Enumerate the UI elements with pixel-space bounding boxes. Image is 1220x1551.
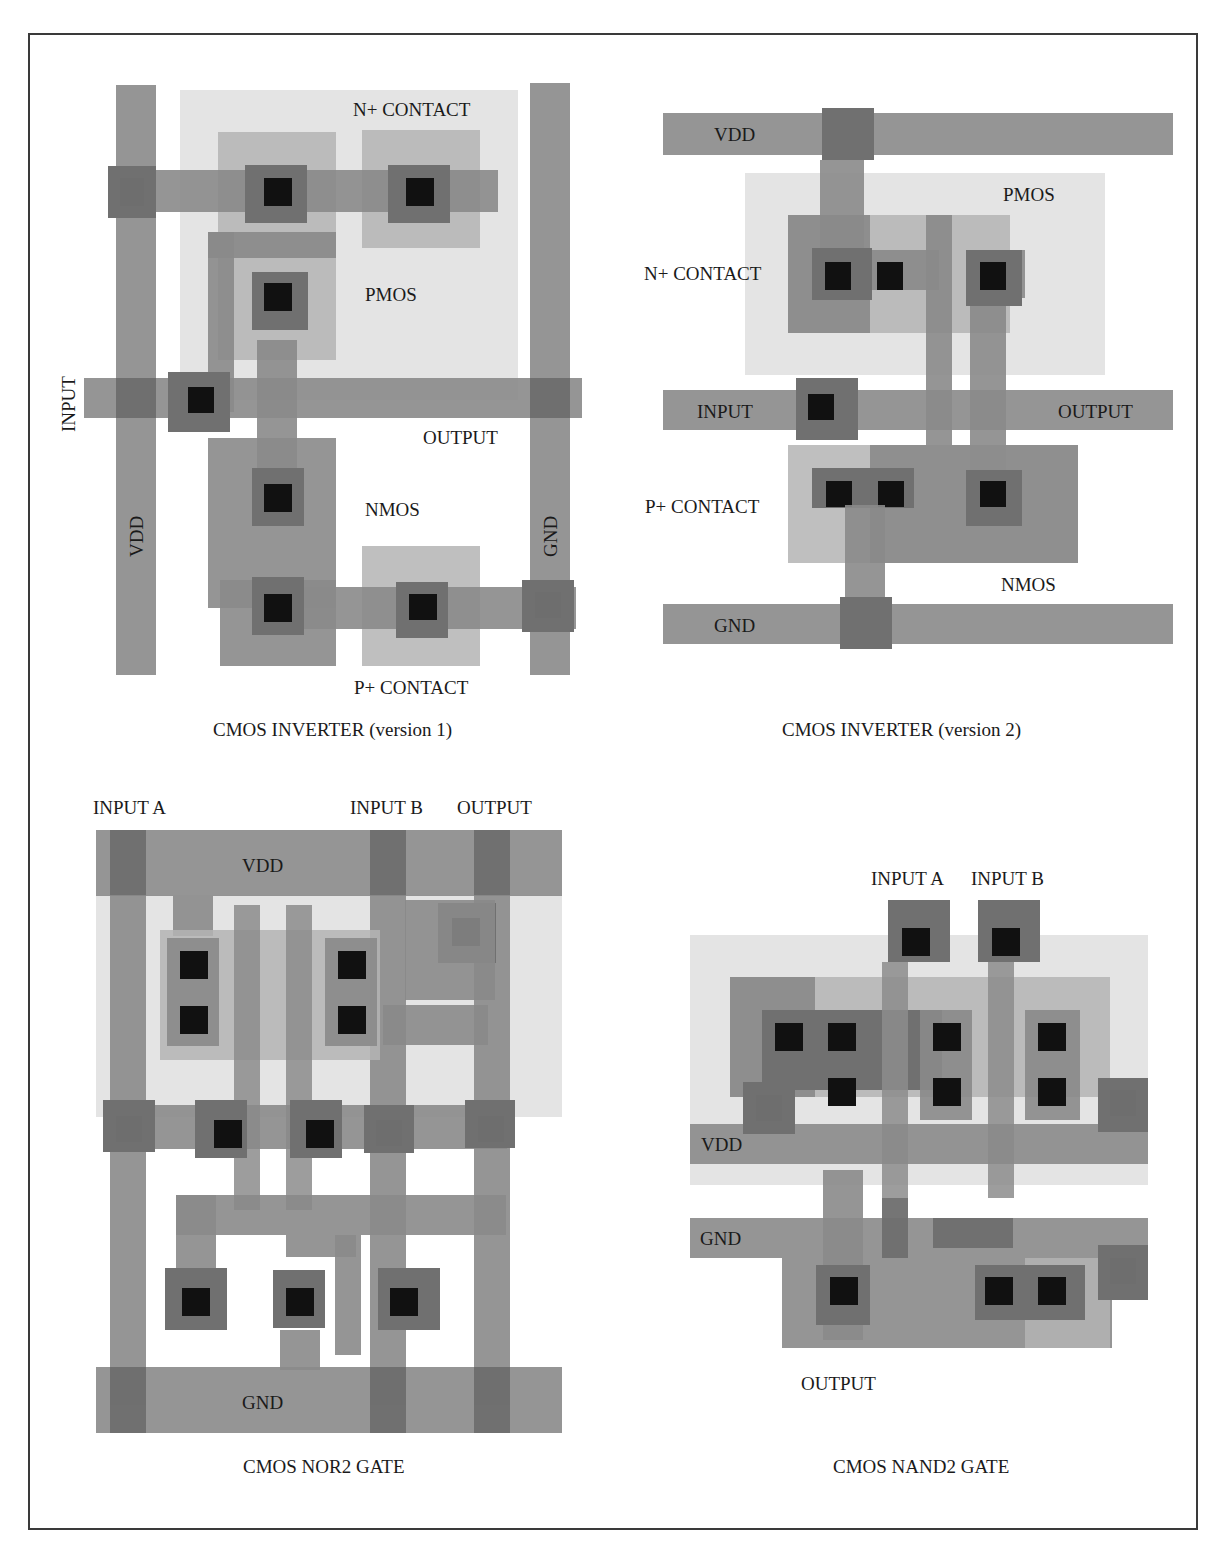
contact-cut (1038, 1023, 1066, 1051)
metal-line (845, 505, 885, 605)
contact-cut (180, 1006, 208, 1034)
contact-cut (808, 394, 834, 420)
label-output: OUTPUT (801, 1373, 876, 1394)
label-vdd: VDD (714, 124, 755, 145)
contact-cut (980, 481, 1006, 507)
contact-cut (264, 178, 292, 206)
label-input-a: INPUT A (93, 797, 166, 818)
metal-line (176, 1195, 216, 1275)
metal-line (176, 1195, 506, 1235)
contact-cut (828, 1023, 856, 1051)
metal-via (370, 830, 406, 896)
metal-line (280, 1330, 320, 1370)
contact-cut (826, 481, 852, 507)
contact-cut (338, 1006, 366, 1034)
label-p-contact: P+ CONTACT (354, 677, 469, 698)
metal-via (116, 1116, 142, 1142)
label-pmos: PMOS (365, 284, 417, 305)
cmos-layouts-figure: N+ CONTACT PMOS INPUT OUTPUT NMOS VDD GN… (0, 0, 1220, 1551)
contact-pad (840, 597, 892, 649)
caption-inverter-v1: CMOS INVERTER (version 1) (213, 719, 452, 741)
metal-line (335, 1235, 361, 1355)
contact-cut (188, 387, 214, 413)
label-output: OUTPUT (1058, 401, 1133, 422)
label-pmos: PMOS (1003, 184, 1055, 205)
metal-via (933, 1218, 1013, 1248)
label-gnd: GND (700, 1228, 741, 1249)
contact-cut (985, 1277, 1013, 1305)
metal-via (474, 1367, 510, 1433)
metal-via (116, 378, 156, 418)
contact-cut (409, 594, 437, 620)
metal-via (1110, 1258, 1136, 1284)
contact-cut (775, 1023, 803, 1051)
label-p-contact: P+ CONTACT (645, 496, 760, 517)
metal-via (478, 1116, 504, 1142)
caption-nand2: CMOS NAND2 GATE (833, 1456, 1009, 1477)
label-n-contact: N+ CONTACT (353, 99, 471, 120)
label-nmos: NMOS (1001, 574, 1056, 595)
caption-inverter-v2: CMOS INVERTER (version 2) (782, 719, 1021, 741)
metal-via (530, 378, 570, 418)
contact-cut (338, 951, 366, 979)
contact-cut (878, 481, 904, 507)
layout-shapes (84, 83, 1173, 1433)
contact-cut (980, 262, 1006, 290)
caption-nor2: CMOS NOR2 GATE (243, 1456, 405, 1477)
contact-cut (1038, 1078, 1066, 1106)
metal-via (535, 592, 561, 618)
metal-via (1110, 1090, 1136, 1116)
metal-via (756, 1095, 782, 1121)
contact-cut (182, 1288, 210, 1316)
contact-pad (822, 108, 874, 160)
metal-via (882, 1198, 908, 1258)
contact-cut (390, 1288, 418, 1316)
metal-line (690, 1218, 1148, 1258)
label-vdd: VDD (126, 516, 147, 557)
contact-cut (830, 1277, 858, 1305)
metal-line (405, 900, 495, 1000)
contact-cut (828, 1078, 856, 1106)
contact-cut (264, 594, 292, 622)
contact-cut (180, 951, 208, 979)
contact-cut (306, 1120, 334, 1148)
metal-via (474, 830, 510, 896)
contact-cut (933, 1078, 961, 1106)
label-vdd: VDD (242, 855, 283, 876)
contact-cut (992, 928, 1020, 956)
poly-line (286, 905, 312, 1210)
label-input: INPUT (58, 376, 79, 432)
label-gnd: GND (714, 615, 755, 636)
metal-line (84, 378, 582, 418)
label-input-a: INPUT A (871, 868, 944, 889)
metal-via (376, 1120, 402, 1146)
label-gnd: GND (540, 516, 561, 557)
label-input-b: INPUT B (971, 868, 1044, 889)
contact-cut (286, 1288, 314, 1316)
metal-via (110, 1367, 146, 1433)
metal-via (370, 1367, 406, 1433)
label-output: OUTPUT (457, 797, 532, 818)
label-input: INPUT (697, 401, 753, 422)
contact-cut (933, 1023, 961, 1051)
label-n-contact: N+ CONTACT (644, 263, 762, 284)
label-gnd: GND (242, 1392, 283, 1413)
label-input-b: INPUT B (350, 797, 423, 818)
contact-cut (877, 262, 903, 290)
label-nmos: NMOS (365, 499, 420, 520)
contact-cut (825, 262, 851, 290)
contact-cut (1038, 1277, 1066, 1305)
poly-line (234, 905, 260, 1210)
metal-line (383, 1005, 488, 1045)
contact-cut (264, 283, 292, 311)
contact-cut (902, 928, 930, 956)
label-vdd: VDD (701, 1134, 742, 1155)
label-output: OUTPUT (423, 427, 498, 448)
contact-cut (264, 484, 292, 512)
contact-cut (214, 1120, 242, 1148)
contact-cut (406, 178, 434, 206)
metal-via (110, 830, 146, 896)
metal-via (120, 178, 144, 206)
